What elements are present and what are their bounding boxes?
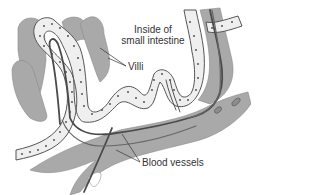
lumen-label: Inside of small intestine <box>119 24 187 46</box>
lumen-label-line2: small intestine <box>119 35 187 46</box>
blood-vessels-label: Blood vessels <box>142 157 204 168</box>
villi-label: Villi <box>128 61 143 72</box>
lumen-label-line1: Inside of <box>119 24 187 35</box>
